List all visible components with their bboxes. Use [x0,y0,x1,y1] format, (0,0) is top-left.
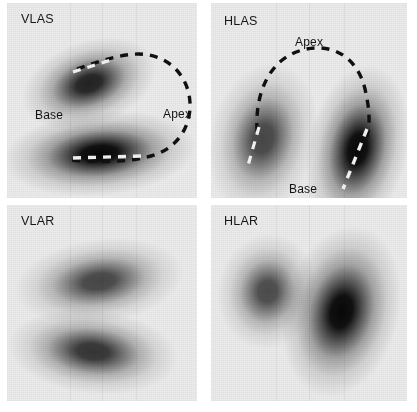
film-grain-texture [7,205,197,401]
film-grain-texture [7,3,197,198]
panel-label-hlar: HLAR [224,215,258,228]
panel-label-vlar: VLAR [21,215,54,228]
contour-highlight-apical-anterior-marker [73,60,111,72]
uptake-region-septal-wall [211,36,346,198]
contour-highlight-inferior-wall-marker [73,156,143,158]
annotation-base-vlas: Base [35,109,63,121]
scintigram-panel-hlas[interactable]: HLASApexBase [211,3,407,198]
acquisition-seam-line [102,205,103,401]
panel-label-hlas: HLAS [224,15,257,28]
scintigram-panel-hlar[interactable]: HLAR [211,205,407,401]
uptake-region-anterior-wall [7,9,182,157]
scintigram-panel-vlas[interactable]: VLASBaseApex [7,3,197,198]
film-grain-texture [211,205,407,401]
acquisition-seam-line [136,205,137,401]
contour-overlay-vlas [7,3,197,198]
acquisition-seam-line [70,205,71,401]
acquisition-seam-line [344,3,345,198]
acquisition-seam-line [276,3,277,198]
contour-highlight-lateral-wall-marker [343,129,367,189]
film-grain-texture [211,3,407,198]
uptake-region-inferior-wall [7,291,197,401]
annotation-base-hlas: Base [289,183,317,195]
acquisition-seam-line [102,3,103,198]
annotation-apex-hlas: Apex [295,36,323,48]
spect-figure: VLASBaseApexHLASApexBaseVLARHLAR [0,0,417,412]
annotation-apex-vlas: Apex [163,108,191,120]
contour-overlay-hlas [211,3,407,198]
scintigram-panel-vlar[interactable]: VLAR [7,205,197,401]
uptake-region-lateral-wall [251,205,407,401]
acquisition-seam-line [344,205,345,401]
myocardial-contour-dashed [257,48,369,137]
acquisition-seam-line [309,3,310,198]
uptake-region-anterior-wall [7,218,197,344]
uptake-region-septal-wall [211,214,336,367]
acquisition-seam-line [70,3,71,198]
uptake-region-lateral-wall [279,40,407,198]
panel-label-vlas: VLAS [21,13,54,26]
acquisition-seam-line [136,3,137,198]
acquisition-seam-line [309,205,310,401]
contour-highlight-septal-wall-marker [247,127,259,169]
acquisition-seam-line [276,205,277,401]
